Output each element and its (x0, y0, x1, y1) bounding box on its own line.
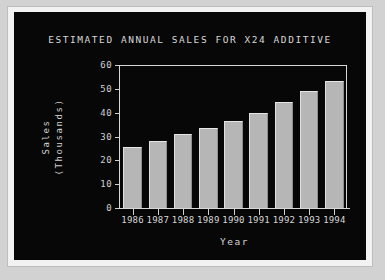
bar (224, 121, 243, 208)
bar (149, 141, 168, 208)
x-axis-tick-labels: 198619871988198919901991199219931994 (119, 215, 350, 227)
bar (300, 91, 319, 208)
screenshot-root: ESTIMATED ANNUAL SALES FOR X24 ADDITIVE … (0, 0, 385, 280)
y-axis-tick (115, 208, 119, 209)
plot-area: 0102030405060 (119, 65, 347, 208)
y-axis-title-line2: (Thousands) (53, 92, 66, 182)
bar (174, 134, 193, 208)
x-axis-title: Year (119, 236, 350, 247)
chart-title: ESTIMATED ANNUAL SALES FOR X24 ADDITIVE (14, 34, 366, 45)
y-axis-tick (115, 65, 119, 66)
x-axis-tick-label: 1991 (247, 215, 269, 225)
bar (275, 102, 294, 208)
y-axis-tick-label: 0 (106, 203, 112, 213)
x-axis-tick-label: 1994 (323, 215, 345, 225)
x-axis-tick-label: 1992 (273, 215, 295, 225)
y-axis-tick (115, 89, 119, 90)
y-axis-tick-label: 60 (100, 60, 112, 70)
bar (249, 113, 268, 208)
y-axis-tick (115, 184, 119, 185)
x-axis-tick-label: 1988 (172, 215, 194, 225)
y-axis-title-line1: Sales (40, 92, 53, 182)
x-axis-tick-label: 1993 (298, 215, 320, 225)
x-axis-tick-label: 1990 (222, 215, 244, 225)
y-axis-title: Sales (Thousands) (40, 92, 130, 182)
x-axis-tick-label: 1987 (147, 215, 169, 225)
crt-screen: ESTIMATED ANNUAL SALES FOR X24 ADDITIVE … (14, 12, 366, 260)
bar (199, 128, 218, 208)
x-axis-tick-label: 1989 (197, 215, 219, 225)
bar-series (120, 65, 347, 208)
bar (325, 81, 344, 209)
x-axis-tick-label: 1986 (121, 215, 143, 225)
